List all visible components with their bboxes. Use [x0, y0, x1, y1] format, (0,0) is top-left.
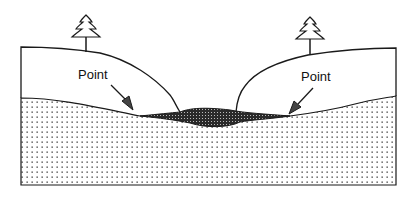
left-point-label: Point	[78, 67, 108, 82]
right-point-label: Point	[301, 69, 331, 84]
cross-section-diagram: Point Point	[0, 0, 414, 206]
tree-icon	[72, 15, 100, 52]
tree-icon	[296, 17, 324, 54]
right-arrow-shaft	[298, 88, 313, 104]
